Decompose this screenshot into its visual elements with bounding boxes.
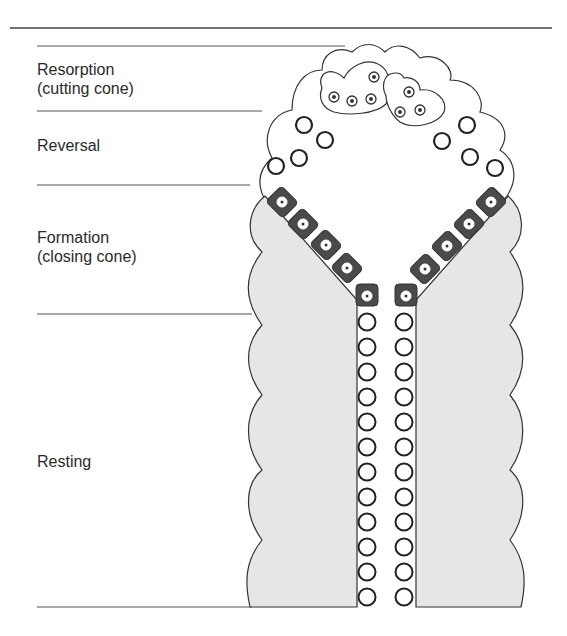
label-reversal: Reversal xyxy=(37,136,100,155)
label-formation-line2: (closing cone) xyxy=(37,247,137,266)
label-resting-text: Resting xyxy=(37,452,91,471)
label-resting: Resting xyxy=(37,452,91,471)
label-resorption-line2: (cutting cone) xyxy=(37,79,134,98)
reversal-cells xyxy=(268,117,503,176)
label-resorption-line1: Resorption xyxy=(37,60,134,79)
osteoclast-right xyxy=(384,73,445,126)
lining-cells-right xyxy=(396,314,413,606)
bone-right xyxy=(416,196,524,607)
label-resorption: Resorption (cutting cone) xyxy=(37,60,134,98)
label-formation: Formation (closing cone) xyxy=(37,228,137,266)
lining-cells-left xyxy=(359,314,376,606)
osteoclast-left xyxy=(321,62,390,114)
label-reversal-text: Reversal xyxy=(37,136,100,155)
label-formation-line1: Formation xyxy=(37,228,137,247)
